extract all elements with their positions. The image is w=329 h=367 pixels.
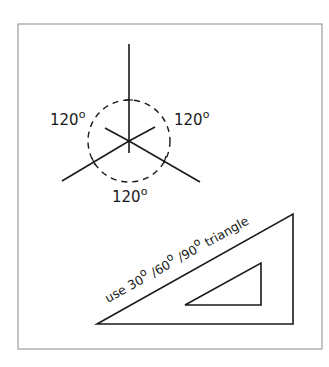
isometric-axes-diagram: 120o 120o 120o use 30o /60o /90o triangl… — [0, 0, 329, 367]
angle-label-right: 120o — [174, 108, 210, 129]
triangle-usage-note: use 30o /60o /90o triangle — [100, 209, 251, 305]
triangle-outer — [97, 214, 293, 324]
construction-line-upper-left — [105, 128, 129, 141]
construction-line-upper-right — [129, 127, 155, 141]
axis-left — [62, 141, 129, 181]
angle-label-bottom: 120o — [112, 185, 148, 206]
triangle-inner-cutout — [185, 263, 261, 305]
angle-label-left: 120o — [50, 108, 86, 129]
diagram-frame — [18, 24, 322, 349]
